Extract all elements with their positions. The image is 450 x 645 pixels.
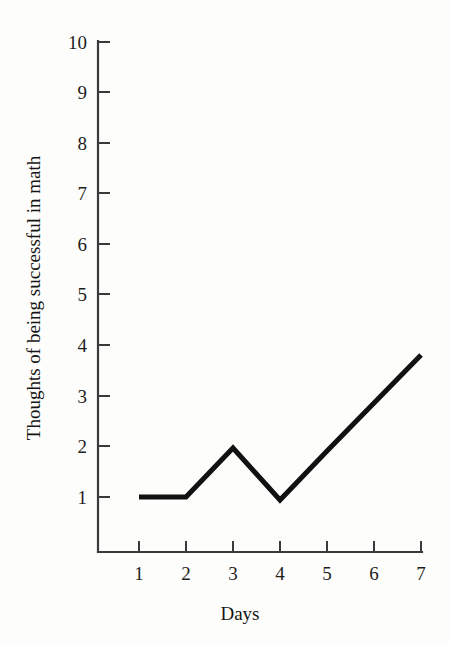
x-tick-label-6: 6 <box>369 563 379 584</box>
x-axis-ticks <box>139 541 421 552</box>
y-tick-label-2: 2 <box>78 436 88 457</box>
x-tick-label-3: 3 <box>228 563 238 584</box>
x-tick-label-4: 4 <box>275 563 285 584</box>
x-tick-label-7: 7 <box>416 563 426 584</box>
x-tick-label-2: 2 <box>181 563 191 584</box>
y-tick-label-7: 7 <box>78 183 88 204</box>
y-tick-label-10: 10 <box>68 32 87 53</box>
x-axis-title: Days <box>220 603 259 624</box>
y-tick-label-3: 3 <box>78 386 88 407</box>
y-tick-label-8: 8 <box>78 133 88 154</box>
line-chart: 10 9 8 7 6 5 4 3 2 1 1 2 3 4 5 <box>0 0 450 645</box>
y-tick-label-4: 4 <box>78 335 88 356</box>
x-tick-label-1: 1 <box>134 563 144 584</box>
y-tick-label-1: 1 <box>78 487 88 508</box>
chart-page: 10 9 8 7 6 5 4 3 2 1 1 2 3 4 5 <box>0 0 450 645</box>
x-axis-tick-labels: 1 2 3 4 5 6 7 <box>134 563 426 584</box>
y-axis-tick-labels: 10 9 8 7 6 5 4 3 2 1 <box>68 32 88 508</box>
y-tick-label-6: 6 <box>78 234 88 255</box>
y-tick-label-9: 9 <box>78 82 88 103</box>
y-axis-title: Thoughts of being successful in math <box>23 155 44 440</box>
data-series-line <box>139 355 421 500</box>
y-tick-label-5: 5 <box>78 284 88 305</box>
y-axis-ticks <box>98 42 110 497</box>
x-tick-label-5: 5 <box>322 563 332 584</box>
